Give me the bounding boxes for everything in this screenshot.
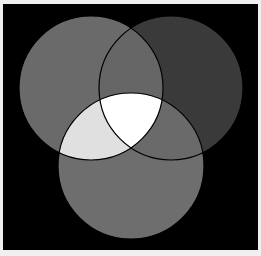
image-frame (0, 0, 261, 256)
venn-diagram (0, 0, 261, 256)
